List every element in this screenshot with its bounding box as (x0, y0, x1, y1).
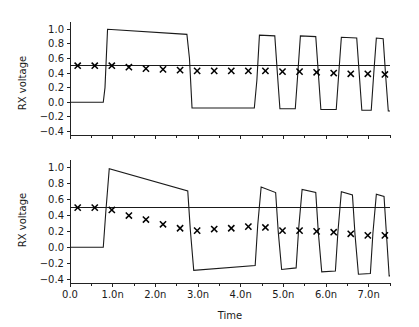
top-panel-y-tick-label: 0.8 (48, 38, 64, 49)
top-panel-y-tick-label: 0.0 (48, 97, 64, 108)
plot-canvas: RX voltage −0.4−0.20.00.20.40.60.81.0 RX… (0, 0, 419, 327)
bottom-panel-y-tick-label: 0.2 (48, 226, 64, 237)
bottom-panel-x-tick-label: 4.0n (230, 289, 252, 300)
bottom-panel-x-tick-label: 3.0n (187, 289, 209, 300)
bottom-panel-y-tick-label: 0.0 (48, 242, 64, 253)
top-panel-y-tick-label: 0.2 (48, 82, 64, 93)
top-panel-y-axis-label-group: RX voltage (17, 56, 28, 110)
bottom-panel-x-tick-label: 6.0n (315, 289, 337, 300)
bottom-panel-x-tick-label: 1.0n (102, 289, 124, 300)
bottom-panel-x-tick-label: 7.0n (358, 289, 380, 300)
bottom-panel-y-tick-label: 1.0 (48, 162, 64, 173)
bottom-panel-x-tick-label: 2.0n (144, 289, 166, 300)
rx-voltage-figure: RX voltage −0.4−0.20.00.20.40.60.81.0 RX… (0, 0, 419, 327)
top-panel-y-tick-label: −0.2 (40, 111, 64, 122)
bottom-panel-xlabel: Time (217, 310, 242, 321)
top-panel-y-tick-label: 1.0 (48, 24, 64, 35)
bottom-panel-y-tick-label: 0.4 (48, 210, 64, 221)
bottom-panel-y-tick-label: 0.8 (48, 178, 64, 189)
bottom-panel-ylabel: RX voltage (17, 193, 28, 247)
top-panel-ylabel: RX voltage (17, 56, 28, 110)
bottom-panel-x-tick-label: 0.0 (62, 289, 78, 300)
bottom-panel-y-tick-label: −0.2 (40, 258, 64, 269)
top-panel-y-tick-label: 0.6 (48, 53, 64, 64)
bottom-panel-y-tick-label: −0.4 (40, 274, 64, 285)
bottom-panel-y-axis-label-group: RX voltage (17, 193, 28, 247)
bottom-panel-x-tick-label: 5.0n (272, 289, 294, 300)
bottom-panel-y-tick-label: 0.6 (48, 194, 64, 205)
top-panel-y-tick-label: 0.4 (48, 68, 64, 79)
top-panel-y-tick-label: −0.4 (40, 126, 64, 137)
